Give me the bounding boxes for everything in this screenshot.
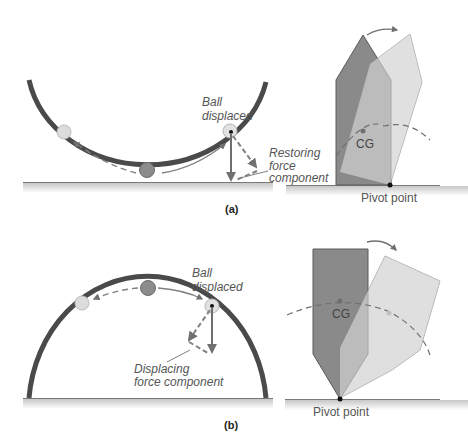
restoring-force-label-line1: Restoring <box>269 146 321 160</box>
cg-label-a: CG <box>356 137 374 151</box>
cg-dot-b <box>338 299 343 304</box>
ghost-ball-left-b <box>75 296 89 310</box>
ground-a-left <box>23 183 273 194</box>
pivot-dot-b <box>338 397 343 402</box>
panel-label-b: (b) <box>224 419 238 431</box>
displacing-force-label-line2: force component <box>134 375 224 389</box>
resting-ball-b <box>141 281 156 296</box>
resting-ball <box>140 163 155 178</box>
pivot-dot-a <box>388 183 393 188</box>
displacing-force-label-line1: Displacing <box>134 362 190 376</box>
restoring-component-vector <box>233 136 256 167</box>
ghost-ball-left <box>57 125 71 139</box>
panel-label-a: (a) <box>225 203 239 215</box>
ball-displaced-label-b-line2: displaced <box>192 280 243 294</box>
ground-b-left <box>23 399 273 410</box>
normal-component-dashed <box>236 171 257 180</box>
pivot-label-b: Pivot point <box>313 405 370 419</box>
panel-a: Ball displaced Restoring force component… <box>23 29 468 215</box>
ball-displaced-label-b-line1: Ball <box>192 266 212 280</box>
cg-dot-displaced-a <box>378 124 383 129</box>
cg-dot-a <box>361 129 366 134</box>
rotation-arrow-a <box>367 29 397 35</box>
stability-diagram: Ball displaced Restoring force component… <box>0 0 468 446</box>
cg-label-b: CG <box>332 307 350 321</box>
rotation-arrow-b <box>367 241 396 250</box>
restoring-force-label-line3: component <box>269 171 329 185</box>
pivot-label-a: Pivot point <box>361 191 418 205</box>
ball-displaced-label-a-line2: displaced <box>202 109 253 123</box>
normal-component-dashed-b <box>189 342 208 353</box>
cg-dot-displaced-b <box>387 311 392 316</box>
label-leader-b <box>167 350 190 362</box>
ball-displaced-label-a-line1: Ball <box>202 95 222 109</box>
displacing-component-vector <box>189 310 210 340</box>
panel-b: Ball displaced Displacing force componen… <box>23 241 468 431</box>
